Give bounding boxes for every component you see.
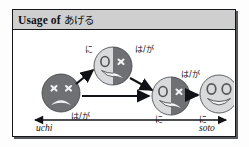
face-node-4	[200, 75, 234, 113]
axis-label-uchi: uchi	[36, 124, 52, 134]
particle-label-wa-ga-3: は/が	[181, 71, 200, 79]
face-node-3	[152, 77, 190, 115]
face-node-2	[94, 47, 132, 85]
title-prefix-text: Usage of	[18, 14, 64, 26]
diagram-title-bar: Usage of あげる	[13, 10, 235, 30]
particle-label-wa-ga-1: は/が	[71, 113, 90, 121]
particle-label-wa-ga-2: は/が	[135, 46, 154, 54]
arrow-face2-to-face3	[130, 78, 152, 90]
particle-label-ni-2: に	[155, 116, 163, 124]
particle-label-ni-1: に	[85, 46, 93, 54]
arrow-face1-to-face2	[76, 70, 93, 84]
diagram-canvas: は/が に は/が に は/が に uchi soto	[13, 30, 235, 136]
diagram-title: Usage of あげる	[13, 12, 94, 27]
title-japanese-text: あげる	[64, 14, 94, 26]
figure-usage-of-ageru: Usage of あげる	[0, 0, 249, 147]
diagram-frame: Usage of あげる	[12, 9, 236, 137]
face-node-1	[42, 74, 80, 112]
axis-label-soto: soto	[199, 124, 215, 134]
